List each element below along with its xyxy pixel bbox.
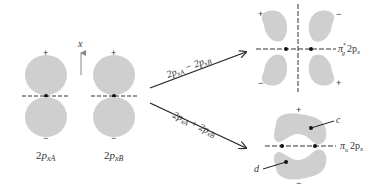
upper-lobe [93, 55, 135, 95]
minus-sign: − [258, 78, 263, 88]
lobe-bottom-right [309, 54, 334, 85]
nucleus-dot [313, 144, 317, 148]
orbital-label: πu2px [340, 140, 364, 153]
lobe-top-left [262, 10, 287, 41]
mo-diagram: + − 2pxA x + − 2pxB 2pxA−2pxB 2pxA+2pxB [0, 0, 383, 187]
plus-sign: + [258, 9, 263, 19]
plus-sign: + [296, 105, 301, 115]
minus-sign: − [336, 9, 341, 19]
plus-sign: + [336, 78, 341, 88]
lower-lobe [93, 97, 135, 137]
nucleus-dot [280, 144, 284, 148]
upper-lobe [274, 113, 326, 144]
minus-sign: − [296, 178, 301, 187]
point-c-label: c [336, 114, 341, 125]
orbital-2pxB: + − 2pxB [91, 48, 138, 163]
pi-u-bonding-orbital: + c d − πu2px [254, 105, 364, 187]
antibonding-combination-arrow: 2pxA−2pxB [150, 52, 246, 88]
bonding-combination-arrow: 2pxA+2pxB [150, 103, 246, 148]
pi-star-antibonding-orbital: + − − + π*g2px [256, 4, 361, 92]
arrow-label: 2pxA+2pxB [170, 109, 218, 141]
lower-lobe [25, 97, 67, 137]
minus-sign: − [43, 133, 48, 143]
x-axis-label: x [77, 38, 83, 49]
upper-lobe [25, 55, 67, 95]
orbital-label: 2pxA [36, 149, 56, 163]
nucleus-dot [309, 47, 313, 51]
x-axis-indicator: x [77, 38, 83, 75]
lower-lobe [274, 150, 326, 180]
nucleus-dot [284, 47, 288, 51]
lobe-bottom-left [262, 54, 287, 85]
arrow-label: 2pxA−2pxB [165, 53, 214, 82]
orbital-label: π*g2px [338, 42, 361, 56]
orbital-label: 2pxB [104, 149, 124, 163]
lobe-top-right [309, 10, 334, 41]
point-d-label: d [254, 163, 260, 174]
arrow-line [150, 103, 246, 148]
orbital-2pxA: + − 2pxA [22, 48, 70, 163]
minus-sign: − [111, 133, 116, 143]
